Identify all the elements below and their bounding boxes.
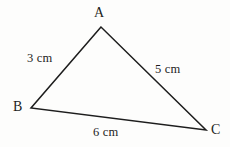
triangle-outline xyxy=(31,27,206,130)
triangle-figure: A B C 3 cm 5 cm 6 cm xyxy=(0,0,230,147)
vertex-label-b: B xyxy=(13,100,23,114)
side-length-label-bc: 6 cm xyxy=(93,126,118,139)
side-length-label-ac: 5 cm xyxy=(155,63,180,76)
vertex-label-c: C xyxy=(211,123,221,137)
side-length-label-ab: 3 cm xyxy=(27,52,52,65)
vertex-label-a: A xyxy=(94,6,104,20)
